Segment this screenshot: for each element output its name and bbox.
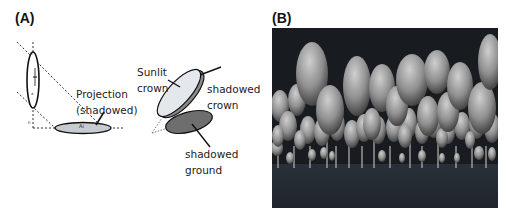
sunlit-crown-label: Sunlit crown <box>137 64 169 96</box>
sunlit-crown-label-line1: Sunlit <box>137 64 169 80</box>
panel-b-label: (B) <box>272 10 291 26</box>
projection-label-line1: Projection <box>76 86 138 102</box>
shadowed-crown-label-line1: shadowed <box>207 81 260 97</box>
shadowed-crown-label: shadowed crown <box>207 81 260 113</box>
shadowed-ground-label: shadowed ground <box>185 146 238 178</box>
sunlit-crown-label-line2: crown <box>137 80 169 96</box>
vertical-crown-ellipse <box>27 52 39 108</box>
ai-label: Ai <box>79 122 84 130</box>
shadowed-ground-label-line2: ground <box>185 162 238 178</box>
projection-label: Projection (shadowed) <box>76 86 138 118</box>
shadowed-crown-label-line2: crown <box>207 97 260 113</box>
projection-label-line2: (shadowed) <box>76 102 138 118</box>
shadowed-ground-label-line1: shadowed <box>185 146 238 162</box>
forest-render-image <box>272 28 498 208</box>
svg-text:h: h <box>28 120 31 125</box>
